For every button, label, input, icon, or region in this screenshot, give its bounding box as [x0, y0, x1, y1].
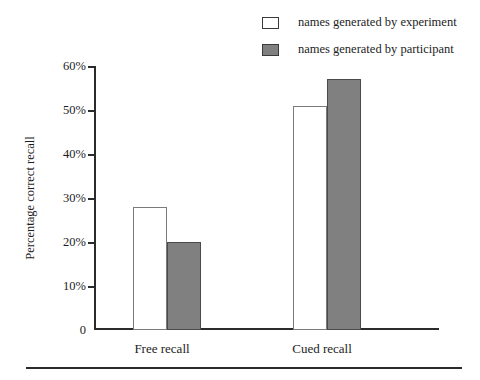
bar-cued-recall-participant: [327, 79, 361, 330]
legend-item-experiment: names generated by experiment: [262, 9, 477, 36]
y-tick-10: [88, 286, 94, 288]
y-tick-label-10: 10%: [63, 280, 86, 292]
y-tick-label-0: 0: [80, 324, 86, 336]
y-tick-label-50: 50%: [63, 104, 86, 116]
y-tick-label-20: 20%: [63, 236, 86, 248]
y-tick-60: [88, 66, 94, 68]
y-tick-labels: 60% 50% 40% 30% 20% 10% 0: [42, 66, 86, 330]
bar-free-recall-participant: [167, 242, 201, 330]
y-tick-20: [88, 242, 94, 244]
y-tick-label-40: 40%: [63, 148, 86, 160]
y-axis-title: Percentage correct recall: [22, 66, 38, 330]
x-label-cued-recall: Cued recall: [262, 342, 382, 356]
legend-label-participant: names generated by participant: [298, 43, 454, 56]
x-label-free-recall: Free recall: [102, 342, 222, 356]
bar-free-recall-experiment: [133, 207, 167, 330]
y-tick-label-60: 60%: [63, 60, 86, 72]
chart-legend: names generated by experiment names gene…: [262, 9, 477, 63]
legend-swatch-grey-icon: [262, 44, 279, 56]
bar-cued-recall-experiment: [293, 106, 327, 330]
legend-label-experiment: names generated by experiment: [298, 16, 457, 29]
bar-chart-figure: names generated by experiment names gene…: [0, 0, 480, 380]
y-tick-30: [88, 198, 94, 200]
y-tick-label-30: 30%: [63, 192, 86, 204]
y-tick-50: [88, 110, 94, 112]
legend-swatch-white-icon: [262, 17, 279, 29]
footer-rule: [26, 367, 462, 369]
legend-item-participant: names generated by participant: [262, 36, 477, 63]
y-axis-line: [94, 66, 96, 330]
plot-area: 60% 50% 40% 30% 20% 10% 0 Free recall Cu…: [94, 66, 439, 330]
y-tick-40: [88, 154, 94, 156]
